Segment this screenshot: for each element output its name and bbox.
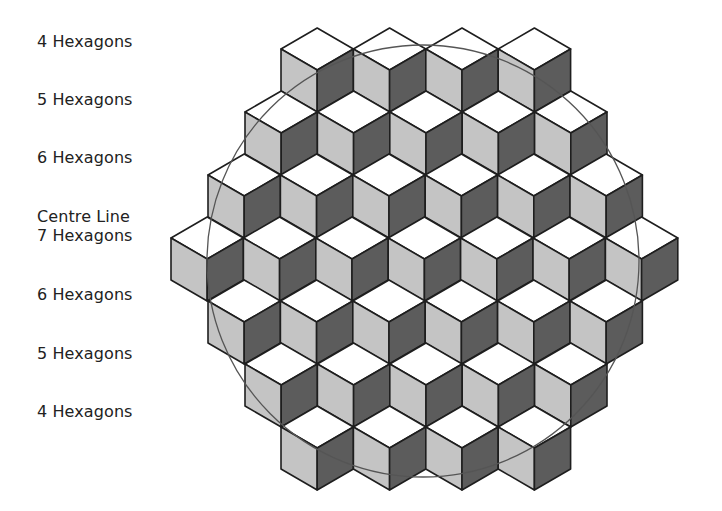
cube-grid (171, 28, 678, 490)
hexagon-cube-diagram (0, 0, 722, 511)
